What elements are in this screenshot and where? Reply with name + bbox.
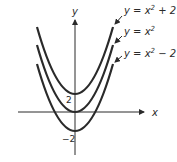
- label-arrow-top: [115, 16, 122, 24]
- y-tick-2: 2: [66, 95, 72, 105]
- label-arrow-bottom: [115, 56, 122, 62]
- label-x2-plus-2: y = x2 + 2: [123, 4, 176, 16]
- y-tick-neg2: −2: [62, 134, 75, 144]
- parabola-diagram: y x 2 −2 y = x2 + 2 y = x2 y = x2 − 2: [0, 0, 177, 162]
- x-axis-label: x: [151, 107, 158, 118]
- label-x2-minus-2: y = x2 − 2: [123, 47, 176, 59]
- y-axis-label: y: [71, 6, 79, 17]
- label-arrow-middle: [115, 36, 122, 43]
- label-x2: y = x2: [123, 25, 156, 37]
